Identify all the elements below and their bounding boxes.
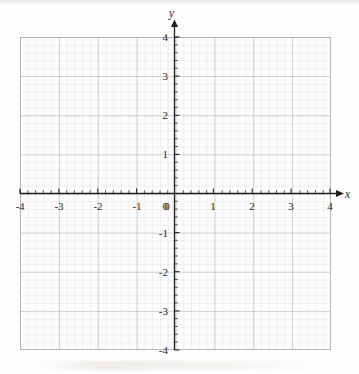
x-tick-label--2: -2 xyxy=(90,201,106,212)
x-axis-label: x xyxy=(345,189,350,201)
y-tick-label--2: -2 xyxy=(146,267,168,278)
y-tick-label--1: -1 xyxy=(146,228,168,239)
grid-lines xyxy=(20,37,331,350)
x-tick-label--4: -4 xyxy=(12,201,28,212)
x-tick-label-1: 1 xyxy=(205,201,221,212)
y-tick-label-2: 2 xyxy=(149,110,168,121)
page-bottom-smudge xyxy=(40,361,320,370)
y-tick-label-1: 1 xyxy=(149,149,168,160)
worksheet-page: x y -4 -3 -2 -1 0 1 2 3 4 4 3 2 1 0 -1 -… xyxy=(0,0,359,374)
x-tick-label-2: 2 xyxy=(244,201,260,212)
y-axis-arrow-icon xyxy=(171,20,178,28)
x-tick-label--3: -3 xyxy=(51,201,67,212)
x-axis-arrow-icon xyxy=(336,190,344,197)
x-tick-label--1: -1 xyxy=(129,201,145,212)
coordinate-grid xyxy=(20,37,331,350)
y-tick-label--3: -3 xyxy=(146,306,168,317)
y-tick-label-0: 0 xyxy=(149,201,168,212)
y-axis-label: y xyxy=(169,8,174,20)
y-tick-label-4: 4 xyxy=(149,32,168,43)
x-tick-label-4: 4 xyxy=(322,201,338,212)
y-tick-label-3: 3 xyxy=(149,71,168,82)
x-tick-label-3: 3 xyxy=(283,201,299,212)
y-tick-label--4: -4 xyxy=(146,345,168,356)
page-top-scan-band xyxy=(0,0,359,5)
